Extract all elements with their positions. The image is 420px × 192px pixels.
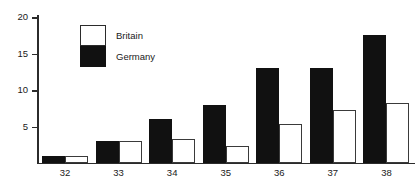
- bar-group: [310, 0, 356, 163]
- x-tick-label: 38: [366, 167, 406, 178]
- legend-swatch-britain: [80, 25, 106, 46]
- y-tick-mark: [32, 54, 37, 56]
- y-tick-label: 10: [6, 84, 28, 95]
- x-tick-label: 36: [259, 167, 299, 178]
- bar-group: [256, 0, 302, 163]
- legend-swatches: [80, 25, 106, 67]
- bar-group: [203, 0, 249, 163]
- bar-britain: [386, 103, 409, 163]
- bar-britain: [333, 110, 356, 163]
- y-tick-label: 20: [6, 11, 28, 22]
- bar-britain: [65, 156, 88, 163]
- bar-britain: [279, 124, 302, 163]
- x-tick-label: 33: [99, 167, 139, 178]
- y-tick-mark: [32, 90, 37, 92]
- bar-germany: [256, 68, 279, 163]
- bar-britain: [226, 146, 249, 163]
- bar-germany: [363, 35, 386, 163]
- legend-label-britain: Britain: [116, 25, 155, 46]
- bar-germany: [42, 156, 65, 163]
- bar-germany: [96, 141, 119, 163]
- x-tick-label: 37: [313, 167, 353, 178]
- y-tick-mark: [32, 17, 37, 19]
- legend-swatch-germany: [80, 46, 106, 67]
- y-tick-label: 5: [6, 121, 28, 132]
- bar-germany: [203, 105, 226, 163]
- legend-labels: Britain Germany: [116, 25, 155, 67]
- bar-chart: 5101520 32333435363738 Britain Germany: [0, 0, 420, 192]
- y-tick-mark: [32, 127, 37, 129]
- bar-group: [149, 0, 195, 163]
- x-tick-label: 35: [206, 167, 246, 178]
- y-axis-line: [37, 15, 39, 164]
- x-tick-label: 34: [152, 167, 192, 178]
- bar-germany: [310, 68, 333, 163]
- bar-group: [363, 0, 409, 163]
- y-tick-label: 15: [6, 48, 28, 59]
- legend-label-germany: Germany: [116, 46, 155, 67]
- bar-britain: [172, 139, 195, 163]
- x-tick-label: 32: [45, 167, 85, 178]
- bar-germany: [149, 119, 172, 163]
- bar-britain: [119, 141, 142, 163]
